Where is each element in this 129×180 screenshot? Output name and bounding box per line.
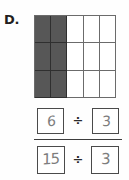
area-model-grid bbox=[34, 15, 116, 98]
numerator-row: 6 ÷ 3 bbox=[37, 105, 119, 136]
denominator-dividend-box[interactable]: 15 bbox=[37, 146, 65, 174]
grid-cell[interactable] bbox=[51, 71, 67, 98]
numerator-dividend-box[interactable]: 6 bbox=[37, 108, 64, 134]
grid-cell[interactable] bbox=[35, 16, 51, 43]
grid-cell[interactable] bbox=[35, 71, 51, 98]
fraction-expression: 6 ÷ 3 15 ÷ 3 bbox=[37, 105, 119, 177]
division-icon: ÷ bbox=[70, 114, 86, 127]
denominator-divisor-value: 3 bbox=[101, 152, 110, 167]
denominator-divisor-box[interactable]: 3 bbox=[91, 146, 119, 174]
grid-cell[interactable] bbox=[84, 16, 100, 43]
grid-cell[interactable] bbox=[35, 43, 51, 70]
grid-cell[interactable] bbox=[67, 43, 83, 70]
grid-cell[interactable] bbox=[100, 43, 116, 70]
grid-cell[interactable] bbox=[67, 71, 83, 98]
grid-cell[interactable] bbox=[84, 43, 100, 70]
grid-cell[interactable] bbox=[100, 71, 116, 98]
fraction-bar bbox=[34, 139, 122, 140]
numerator-divisor-value: 3 bbox=[101, 113, 109, 128]
grid-cell[interactable] bbox=[84, 71, 100, 98]
denominator-dividend-value: 15 bbox=[42, 152, 59, 168]
division-icon: ÷ bbox=[70, 153, 86, 166]
grid-cell[interactable] bbox=[51, 43, 67, 70]
grid-cell[interactable] bbox=[100, 16, 116, 43]
grid-cell[interactable] bbox=[67, 16, 83, 43]
worksheet-problem-d: D. 6 ÷ 3 15 bbox=[0, 0, 129, 180]
numerator-divisor-box[interactable]: 3 bbox=[92, 108, 119, 134]
denominator-row: 15 ÷ 3 bbox=[37, 143, 119, 176]
grid-cell[interactable] bbox=[51, 16, 67, 43]
problem-letter-label: D. bbox=[4, 13, 19, 26]
numerator-dividend-value: 6 bbox=[46, 113, 54, 128]
